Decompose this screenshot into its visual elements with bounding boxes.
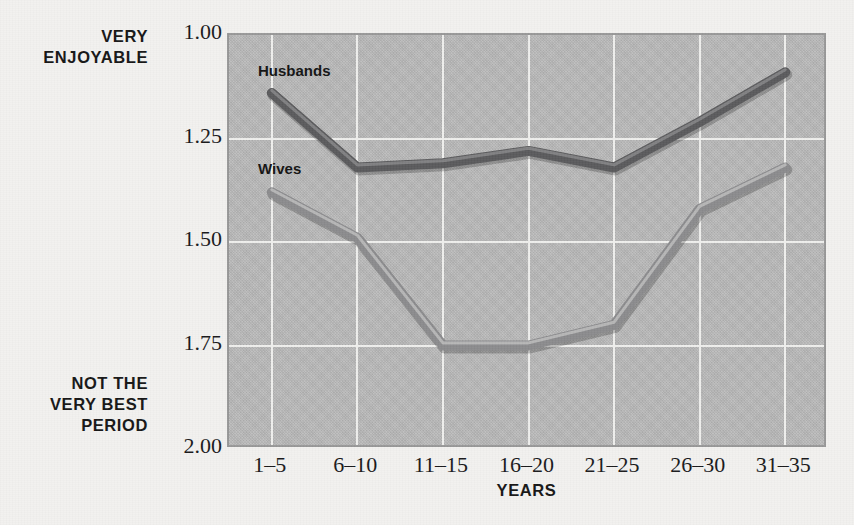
series-highlight-wives bbox=[272, 165, 785, 343]
y-axis-bottom-label: NOT THE VERY BEST PERIOD bbox=[6, 373, 148, 436]
x-tick-label: 21–25 bbox=[566, 452, 658, 478]
marital-satisfaction-line-chart: VERY ENJOYABLE NOT THE VERY BEST PERIOD … bbox=[0, 0, 854, 525]
x-tick-label: 11–15 bbox=[395, 452, 487, 478]
series-shadow-wives bbox=[273, 170, 786, 348]
x-tick-label: 31–35 bbox=[737, 452, 829, 478]
x-tick-label: 1–5 bbox=[224, 452, 316, 478]
series-label-husbands: Husbands bbox=[258, 62, 331, 79]
y-tick-label: 1.75 bbox=[152, 330, 222, 356]
x-tick-label: 16–20 bbox=[481, 452, 573, 478]
y-axis-tick-labels: 1.001.251.501.752.00 bbox=[150, 0, 222, 525]
y-tick-label: 2.00 bbox=[152, 433, 222, 459]
y-axis-top-label: VERY ENJOYABLE bbox=[6, 26, 148, 68]
y-tick-label: 1.00 bbox=[152, 19, 222, 45]
x-tick-label: 26–30 bbox=[652, 452, 744, 478]
y-tick-label: 1.25 bbox=[152, 123, 222, 149]
plot-area bbox=[227, 33, 826, 447]
series-line-wives bbox=[272, 168, 785, 346]
series-lines bbox=[229, 35, 826, 447]
x-axis-title: YEARS bbox=[227, 481, 826, 500]
series-label-wives: Wives bbox=[258, 160, 301, 177]
series-line-husbands bbox=[272, 72, 785, 167]
y-tick-label: 1.50 bbox=[152, 226, 222, 252]
x-axis-tick-labels: 1–56–1011–1516–2021–2526–3031–35 bbox=[227, 452, 826, 482]
x-tick-label: 6–10 bbox=[309, 452, 401, 478]
